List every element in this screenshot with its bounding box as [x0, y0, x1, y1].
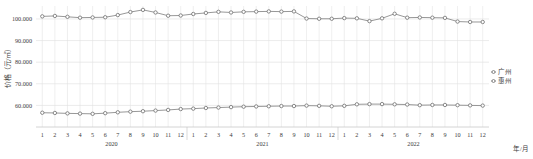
x-tick-label: 1	[41, 131, 44, 138]
x-tick-label: 10	[152, 131, 158, 138]
data-point	[292, 10, 295, 13]
y-tick-label: 100.000	[12, 15, 32, 22]
y-tick-label: 60.000	[15, 102, 32, 109]
data-point	[380, 102, 383, 105]
data-point	[317, 17, 320, 20]
legend-item-1[interactable]: 广州	[491, 67, 512, 76]
x-tick-label: 3	[217, 131, 220, 138]
data-point	[192, 107, 195, 110]
x-tick-label: 4	[78, 131, 81, 138]
data-point	[443, 103, 446, 106]
data-point	[179, 14, 182, 17]
data-point	[78, 112, 81, 115]
x-tick-label: 12	[329, 131, 335, 138]
data-point	[393, 12, 396, 15]
x-tick-label: 4	[380, 131, 383, 138]
data-point	[305, 17, 308, 20]
x-tick-label: 5	[242, 131, 245, 138]
chart-canvas: 60.00070.00080.00090.000100.000123456789…	[0, 0, 533, 159]
x-tick-label: 10	[303, 131, 309, 138]
data-point	[330, 105, 333, 108]
x-tick-label: 2	[53, 131, 56, 138]
data-point	[406, 16, 409, 19]
x-tick-label: 8	[280, 131, 283, 138]
x-tick-label: 6	[255, 131, 258, 138]
x-tick-label: 11	[316, 131, 322, 138]
x-tick-label: 6	[104, 131, 107, 138]
legend-marker-icon	[492, 80, 495, 83]
x-group-label: 2020	[105, 140, 117, 147]
x-tick-label: 4	[229, 131, 232, 138]
data-point	[468, 104, 471, 107]
data-point	[481, 20, 484, 23]
data-point	[418, 16, 421, 19]
x-tick-label: 3	[66, 131, 69, 138]
x-tick-label: 9	[443, 131, 446, 138]
x-tick-label: 7	[116, 131, 119, 138]
data-point	[53, 14, 56, 17]
data-point	[280, 10, 283, 13]
series-1	[41, 8, 485, 23]
data-point	[431, 16, 434, 19]
x-tick-label: 12	[480, 131, 486, 138]
data-point	[204, 11, 207, 14]
series-2	[41, 102, 485, 115]
data-point	[317, 104, 320, 107]
data-point	[91, 16, 94, 19]
data-point	[129, 10, 132, 13]
x-tick-label: 2	[204, 131, 207, 138]
data-point	[380, 17, 383, 20]
data-point	[255, 105, 258, 108]
data-point	[41, 111, 44, 114]
y-tick-label: 90.000	[15, 37, 32, 44]
data-point	[166, 108, 169, 111]
x-group-label: 2021	[256, 140, 268, 147]
data-point	[368, 102, 371, 105]
data-point	[116, 111, 119, 114]
x-tick-label: 5	[91, 131, 94, 138]
data-point	[343, 104, 346, 107]
data-point	[242, 10, 245, 13]
data-point	[355, 17, 358, 20]
data-point	[166, 14, 169, 17]
data-point	[305, 104, 308, 107]
x-tick-label: 11	[467, 131, 473, 138]
data-point	[343, 16, 346, 19]
data-point	[267, 10, 270, 13]
data-point	[229, 11, 232, 14]
data-point	[141, 8, 144, 11]
data-point	[443, 16, 446, 19]
data-point	[91, 112, 94, 115]
data-point	[104, 111, 107, 114]
x-tick-label: 5	[393, 131, 396, 138]
data-point	[229, 105, 232, 108]
x-tick-label: 8	[129, 131, 132, 138]
data-point	[217, 106, 220, 109]
data-point	[292, 104, 295, 107]
legend-marker-icon	[492, 71, 495, 74]
data-point	[78, 16, 81, 19]
data-point	[154, 109, 157, 112]
x-tick-label: 1	[343, 131, 346, 138]
x-tick-label: 3	[368, 131, 371, 138]
data-point	[154, 11, 157, 14]
x-tick-label: 8	[431, 131, 434, 138]
x-tick-label: 10	[454, 131, 460, 138]
data-point	[481, 104, 484, 107]
x-tick-label: 7	[267, 131, 270, 138]
data-point	[431, 103, 434, 106]
data-point	[141, 110, 144, 113]
data-point	[192, 12, 195, 15]
data-point	[355, 103, 358, 106]
data-point	[368, 19, 371, 22]
y-tick-label: 70.000	[15, 80, 32, 87]
data-point	[104, 16, 107, 19]
data-point	[204, 106, 207, 109]
data-point	[129, 110, 132, 113]
x-tick-label: 11	[165, 131, 171, 138]
data-point	[53, 111, 56, 114]
x-tick-label: 2	[355, 131, 358, 138]
legend-item-2[interactable]: 惠州	[491, 76, 512, 84]
data-point	[242, 105, 245, 108]
y-axis-title: 价格（元/㎡）	[3, 45, 12, 89]
